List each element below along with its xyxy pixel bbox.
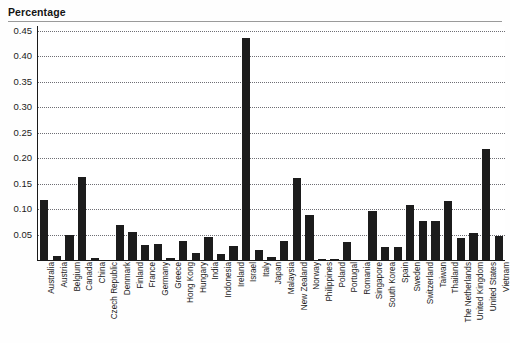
bar	[305, 215, 313, 260]
bar	[217, 254, 225, 260]
x-axis-label-slot: Austria	[51, 262, 64, 342]
y-axis-tick-label: 0.20	[14, 153, 33, 163]
x-axis-label-slot: Belgium	[63, 262, 76, 342]
bar	[406, 205, 414, 260]
x-axis-label-slot: Norway	[303, 262, 316, 342]
x-axis-label-slot: Greece	[164, 262, 177, 342]
bar	[192, 253, 200, 260]
page-title: Percentage	[8, 6, 66, 18]
bar	[318, 259, 326, 260]
x-axis-label-slot: Australia	[38, 262, 51, 342]
x-axis-label-slot: Portugal	[341, 262, 354, 342]
bar	[431, 221, 439, 260]
bar	[343, 242, 351, 260]
bar	[457, 238, 465, 260]
y-axis-tick-label: 0.15	[14, 179, 33, 189]
bar	[65, 235, 73, 260]
x-axis-label-slot: Malaysia	[278, 262, 291, 342]
x-axis-label-slot: China	[88, 262, 101, 342]
x-axis-label-slot: Poland	[328, 262, 341, 342]
x-axis-label-slot: Finland	[126, 262, 139, 342]
bar	[444, 201, 452, 260]
chart-header: Percentage	[8, 6, 502, 24]
x-axis-tick-label: Vietnam	[502, 262, 510, 292]
bar	[40, 200, 48, 260]
chart-figure: Percentage 0.050.100.150.200.250.300.350…	[0, 0, 510, 343]
bar	[53, 256, 61, 260]
bar	[229, 246, 237, 260]
bar	[128, 232, 136, 260]
x-axis-label-slot: Philippines	[316, 262, 329, 342]
x-axis-label-slot: Japan	[265, 262, 278, 342]
y-axis-tick-label: 0.45	[14, 26, 33, 36]
bar	[242, 38, 250, 260]
bar	[166, 258, 174, 260]
bar	[154, 244, 162, 260]
bar	[381, 247, 389, 260]
bar	[267, 257, 275, 260]
bar	[179, 241, 187, 260]
bar	[91, 258, 99, 260]
title-divider	[8, 21, 502, 22]
x-axis-label-slot: Taiwan	[429, 262, 442, 342]
x-axis-label-slot: Switzerland	[417, 262, 430, 342]
x-axis-label-slot: Hong Kong	[177, 262, 190, 342]
x-axis-label-slot: Italy	[253, 262, 266, 342]
x-axis-label-slot: United States	[480, 262, 493, 342]
x-axis-label-slot: Vietnam	[492, 262, 505, 342]
y-axis-tick-label: 0.35	[14, 77, 33, 87]
x-axis-label-slot: Spain	[391, 262, 404, 342]
x-axis-label-slot: Indonesia	[215, 262, 228, 342]
bar	[141, 245, 149, 260]
bar	[495, 236, 503, 260]
y-axis-tick-label: 0.30	[14, 103, 33, 113]
bar	[116, 225, 124, 260]
bar-series	[38, 26, 505, 261]
x-axis-label-slot: Canada	[76, 262, 89, 342]
x-axis-label-slot: Ireland	[227, 262, 240, 342]
x-axis-labels: AustraliaAustriaBelgiumCanadaChinaCzech …	[38, 262, 505, 343]
x-axis-label-slot: Israel	[240, 262, 253, 342]
x-axis-label-slot: South Korea	[379, 262, 392, 342]
bar	[419, 221, 427, 260]
x-axis-label-slot: Sweden	[404, 262, 417, 342]
y-axis-tick-label: 0.05	[14, 230, 33, 240]
x-axis-label-slot: New Zealand	[290, 262, 303, 342]
bar	[330, 259, 338, 260]
x-axis-label-slot: Thailand	[442, 262, 455, 342]
x-axis-label-slot: India	[202, 262, 215, 342]
x-axis-label-slot: United Kingdom	[467, 262, 480, 342]
bar	[280, 241, 288, 260]
x-axis-label-slot: Hungary	[189, 262, 202, 342]
x-axis-label-slot: Czech Republic	[101, 262, 114, 342]
bar	[293, 178, 301, 260]
x-axis-label-slot: Romania	[354, 262, 367, 342]
bar	[368, 211, 376, 260]
bar	[255, 250, 263, 260]
bar	[482, 149, 490, 260]
x-axis-label-slot: The Netherlands	[455, 262, 468, 342]
x-axis-label-slot: France	[139, 262, 152, 342]
plot-area: 0.050.100.150.200.250.300.350.400.45	[37, 26, 505, 261]
y-axis-tick-label: 0.40	[14, 52, 33, 62]
x-axis-label-slot: Singapore	[366, 262, 379, 342]
x-axis-label-slot: Germany	[152, 262, 165, 342]
bar	[204, 237, 212, 260]
bar	[469, 233, 477, 260]
y-axis-tick-label: 0.10	[14, 204, 33, 214]
bar	[394, 247, 402, 260]
y-axis-tick-label: 0.25	[14, 128, 33, 138]
bar	[78, 177, 86, 260]
x-axis-label-slot: Denmark	[114, 262, 127, 342]
